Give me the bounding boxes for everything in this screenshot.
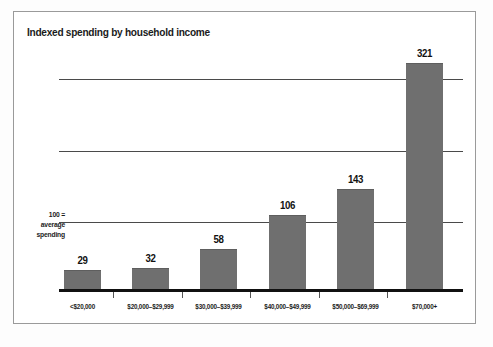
gridline-300-tail bbox=[451, 79, 463, 80]
bar-value-5: 321 bbox=[406, 47, 442, 59]
bar-value-1: 32 bbox=[132, 252, 168, 264]
axis-tick-0 bbox=[113, 292, 114, 298]
category-label-1: $20,000–$29,999 bbox=[119, 303, 183, 310]
axis-tick-2 bbox=[250, 292, 251, 298]
axis-annotation-line-2: average bbox=[23, 220, 65, 230]
axis-tick-3 bbox=[319, 292, 320, 298]
axis-annotation-line-3: spending bbox=[23, 230, 65, 240]
bar-value-4: 143 bbox=[337, 173, 373, 185]
bar-0 bbox=[64, 270, 101, 290]
bar-value-2: 58 bbox=[200, 233, 236, 245]
bar-value-3: 106 bbox=[269, 199, 305, 211]
bar-2 bbox=[200, 249, 237, 290]
category-label-5: $70,000+ bbox=[393, 303, 457, 310]
axis-tick-1 bbox=[182, 292, 183, 298]
category-label-2: $30,000–$39,999 bbox=[187, 303, 251, 310]
gridline-300 bbox=[59, 79, 451, 80]
gridline-100 bbox=[59, 222, 451, 223]
gridline-200-tail bbox=[451, 151, 463, 152]
bar-1 bbox=[132, 268, 169, 290]
bar-3 bbox=[269, 215, 306, 290]
axis-annotation: 100 = average spending bbox=[23, 210, 65, 240]
chart-page: Indexed spending by household income 29 … bbox=[0, 0, 493, 347]
category-label-3: $40,000–$49,999 bbox=[256, 303, 320, 310]
bar-5 bbox=[406, 63, 443, 290]
bar-4 bbox=[337, 189, 374, 290]
axis-annotation-line-1: 100 = bbox=[23, 210, 65, 220]
axis-tick-4 bbox=[387, 292, 388, 298]
plot-area: 29 32 58 106 143 321 <$20,000 $20,000–$2… bbox=[0, 0, 493, 347]
category-label-4: $50,000–$69,999 bbox=[324, 303, 388, 310]
gridline-100-tail bbox=[451, 222, 463, 223]
bar-value-0: 29 bbox=[64, 254, 100, 266]
x-axis-baseline bbox=[59, 289, 463, 292]
gridline-200 bbox=[59, 151, 451, 152]
category-label-0: <$20,000 bbox=[51, 303, 115, 310]
